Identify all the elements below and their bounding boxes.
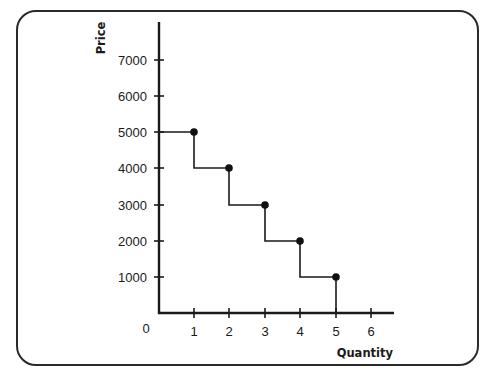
data-point-q5 [332,273,340,281]
x-tick-label-6: 6 [367,324,374,339]
data-point-q1 [190,128,198,136]
x-tick-label-4: 4 [296,324,303,339]
x-tick-label-1: 1 [190,324,197,339]
y-tick-label-3000: 3000 [118,198,147,213]
y-tick-label-6000: 6000 [118,89,147,104]
y-tick-label-5000: 5000 [118,125,147,140]
data-point-q2 [225,164,233,172]
x-axis-title: Quantity [337,346,394,360]
y-tick-label-4000: 4000 [118,161,147,176]
data-point-q3 [261,201,269,209]
y-axis-title: Price [94,21,108,54]
x-tick-label-2: 2 [225,324,232,339]
origin-label: 0 [142,321,149,336]
x-tick-label-3: 3 [261,324,268,339]
y-tick-label-2000: 2000 [118,234,147,249]
y-tick-label-1000: 1000 [118,270,147,285]
demand-step-line [159,132,336,313]
data-point-q4 [296,237,304,245]
data-points [190,128,340,281]
chart-canvas: 7000 6000 5000 4000 3000 2000 1000 0 1 2… [0,0,494,375]
y-tick-label-7000: 7000 [118,53,147,68]
x-tick-label-5: 5 [332,324,339,339]
